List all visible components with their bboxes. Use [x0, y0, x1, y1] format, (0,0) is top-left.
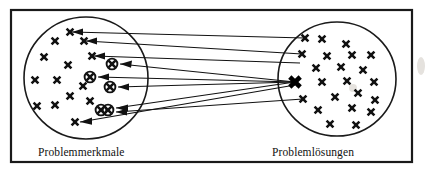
figure-root: Problemmerkmale Problemlösungen: [0, 0, 431, 176]
marker-x: [324, 53, 331, 60]
marker-x: [368, 109, 375, 116]
marker-x: [315, 107, 322, 114]
marker-x: [332, 94, 339, 101]
marker-x: [360, 67, 367, 74]
marker-x: [355, 90, 362, 97]
link-arrowhead-6: [118, 84, 129, 91]
marker-x: [67, 93, 74, 100]
marker-x: [319, 36, 326, 43]
marker-x: [319, 79, 326, 86]
marker-x: [52, 102, 59, 109]
marker-x: [87, 98, 94, 105]
marker-x: [313, 65, 320, 72]
link-line-1: [72, 32, 305, 38]
marker-x: [371, 79, 378, 86]
marker-circled-x: [107, 59, 118, 70]
left-set-label: Problemmerkmale: [38, 146, 124, 158]
marker-x: [72, 119, 79, 126]
link-arrowhead-5: [98, 74, 109, 81]
marker-x: [338, 64, 345, 71]
marker-x: [368, 52, 375, 59]
marker-x: [349, 52, 356, 59]
marker-x: [349, 105, 356, 112]
marker-x: [52, 38, 59, 45]
marker-x: [344, 78, 351, 85]
marker-x: [34, 103, 41, 110]
right-set-label: Problemlösungen: [272, 146, 354, 159]
link-line-2: [86, 41, 302, 54]
marker-x: [32, 77, 39, 84]
marker-circled-x: [85, 72, 96, 83]
left-marker-group: [32, 29, 96, 126]
marker-x: [41, 54, 48, 61]
link-line-3: [94, 56, 300, 63]
marker-circled-x: [105, 82, 116, 93]
marker-x: [80, 83, 87, 90]
marker-x: [353, 122, 360, 129]
marker-x: [343, 41, 350, 48]
paper-smudge: [417, 57, 425, 75]
marker-x: [327, 121, 334, 128]
diagram-canvas: Problemmerkmale Problemlösungen: [0, 0, 431, 176]
marker-x: [65, 62, 72, 69]
link-arrowhead-4: [120, 61, 132, 68]
marker-x: [372, 97, 379, 104]
marker-x: [54, 77, 61, 84]
left-circled-marker-group: [85, 59, 118, 116]
marker-circled-x: [103, 105, 114, 116]
right-marker-group: [299, 35, 379, 129]
